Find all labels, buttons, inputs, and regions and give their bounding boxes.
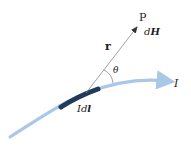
field-label-dH: dH	[144, 27, 160, 37]
field-label-vector: H	[150, 26, 159, 37]
element-label-prefix: Id	[77, 103, 87, 114]
angle-label-theta: θ	[113, 66, 118, 75]
point-label-P: P	[139, 12, 146, 23]
radius-label-r: r	[105, 41, 111, 52]
element-label-vector: l	[87, 103, 91, 114]
angle-arc	[104, 70, 113, 83]
element-label-Idl: Idl	[77, 104, 91, 114]
current-label-I: I	[174, 78, 178, 89]
diagram-canvas	[0, 0, 191, 148]
